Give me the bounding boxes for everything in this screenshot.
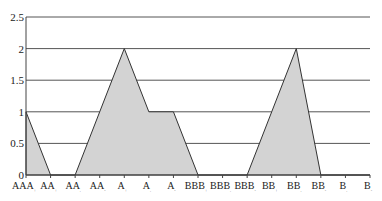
area-chart: 00.511.522.5 AAA+AA+AA.AA-A+A.A-BBB+BBB.…	[0, 0, 382, 201]
y-tick-label: 1	[19, 106, 25, 118]
x-tick-label: AA-	[90, 180, 106, 193]
x-axis-labels: AAA+AA+AA.AA-A+A.A-BBB+BBB.BBB-BB+BB.BB-…	[12, 180, 373, 193]
x-tick-label: BBB+	[185, 180, 208, 193]
x-tick-label: AA.	[65, 180, 80, 193]
x-tick-label: BB+	[262, 180, 278, 193]
x-tick-label: BB-	[312, 180, 327, 193]
y-tick-label: 0.5	[10, 137, 24, 149]
x-tick-label: BB.	[287, 180, 301, 193]
x-tick-label: BBB-	[234, 180, 256, 193]
x-tick-label: A+	[118, 180, 128, 193]
x-tick-label: B-	[364, 180, 373, 193]
x-tick-label: A-	[167, 180, 176, 193]
y-tick-label: 2.5	[10, 11, 24, 23]
x-tick-label: B.	[340, 180, 348, 193]
x-tick-label: BBB.	[210, 180, 231, 193]
axes	[26, 17, 370, 178]
y-tick-label: 1.5	[10, 74, 24, 86]
gridlines	[26, 17, 370, 143]
x-tick-label: AAA+	[12, 180, 37, 193]
y-tick-label: 2	[19, 43, 25, 55]
x-tick-label: AA+	[40, 180, 57, 193]
x-tick-label: A.	[143, 180, 151, 193]
y-axis-labels: 00.511.522.5	[10, 11, 24, 181]
